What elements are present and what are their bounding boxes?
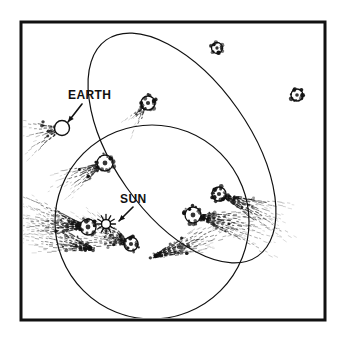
comet-core [86,225,91,230]
tail-speck [47,129,50,132]
tail-speck [109,234,112,237]
tail-streak [143,111,144,112]
tail-streak [170,252,174,253]
diagram-canvas: EARTHSUN [0,0,347,344]
tail-speck [140,113,142,115]
tail-speck [164,257,165,258]
tail-speck [58,227,60,229]
comet-coma-blob [289,96,294,101]
tail-streak [68,218,70,219]
tail-streak [94,237,97,238]
tail-speck [75,244,78,247]
tail-speck [135,113,138,116]
comet-coma-blob [124,240,127,243]
tail-speck [251,198,253,200]
comet-coma-blob [99,156,101,158]
tail-speck [181,251,184,254]
tail-speck [171,246,172,247]
tail-streak [82,241,84,242]
comet-coma-blob [132,251,135,254]
tail-streak [242,200,244,201]
tail-speck [177,252,179,254]
comet-coma-blob [211,50,215,54]
tail-speck [112,243,115,246]
comet-coma-blob [135,241,139,245]
tail-streak [251,225,255,226]
tail-streak [51,218,53,219]
comet-coma-blob [139,101,143,105]
tail-streak [81,172,83,173]
tail-streak [250,235,251,236]
comet-coma-blob [290,93,292,95]
earth-label: EARTH [68,88,111,102]
comet-coma-blob [199,217,203,221]
tail-speck [112,234,114,236]
tail-speck [179,244,181,246]
tail-streak [46,208,47,209]
tail-speck [252,197,255,200]
comet-coma-blob [102,152,104,154]
tail-streak [80,175,82,176]
tail-streak [104,239,108,240]
comet-coma-blob [100,167,104,171]
tail-speck [74,250,75,251]
tail-streak [184,237,185,238]
comet-coma-blob [216,51,220,55]
tail-streak [181,241,182,242]
tail-speck [173,251,176,254]
orbital-diagram-figure: EARTHSUN [0,0,347,344]
comet-coma-blob [188,208,191,211]
tail-streak [116,235,117,236]
tail-speck [77,236,79,238]
tail-streak [204,234,206,235]
tail-streak [178,248,180,249]
tail-speck [117,236,121,240]
tail-speck [155,256,156,257]
comet-coma-blob [106,156,108,158]
tail-speck [208,217,210,219]
tail-streak [51,210,52,211]
tail-speck [90,178,91,179]
tail-speck [202,217,205,220]
tail-speck [180,237,183,240]
comet-coma-blob [212,195,217,200]
comet-coma-blob [192,223,195,226]
tail-speck [70,221,71,222]
tail-speck [67,223,69,225]
tail-streak [196,252,200,253]
comet-core [295,93,299,97]
tail-streak [83,169,85,170]
comet-coma-blob [147,93,150,96]
comet-coma-blob [224,193,226,195]
tail-streak [258,202,261,203]
tail-speck [208,212,210,214]
comet-coma-blob [300,88,304,92]
tail-streak [69,169,72,170]
comet-coma-blob [149,108,152,111]
tail-speck [115,239,117,241]
tail-speck [64,234,68,238]
tail-speck [65,249,69,253]
tail-streak [65,240,67,241]
tail-streak [213,220,216,221]
tail-streak [190,239,191,240]
tail-streak [170,254,174,255]
tail-speck [43,125,45,127]
comet-coma-blob [138,246,140,248]
tail-streak [65,242,68,243]
comet-coma-blob [96,165,100,169]
tail-streak [169,252,171,253]
comet-coma-blob [218,197,222,201]
tail-speck [211,216,213,218]
comet-coma-blob [195,206,197,208]
tail-streak [142,117,143,118]
comet-coma-blob [112,164,117,169]
comet-coma-blob [213,192,215,194]
comet-coma-blob [78,226,82,230]
figure-background [0,0,347,344]
tail-speck [86,180,87,181]
tail-streak [254,201,258,202]
comet-core [217,192,221,196]
comet-coma-blob [215,187,218,190]
tail-speck [67,236,69,238]
